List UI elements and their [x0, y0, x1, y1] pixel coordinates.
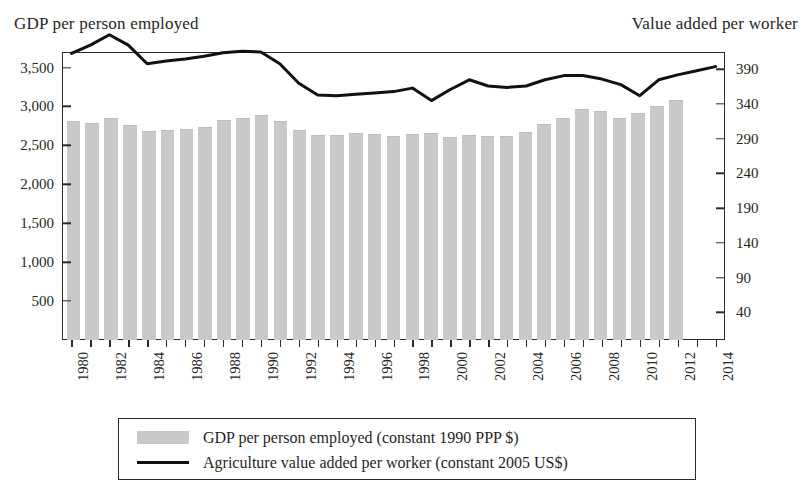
left-axis-tick-label: 500 — [32, 294, 55, 309]
x-axis-label-2012: 2012 — [683, 352, 698, 381]
right-axis: 4090140190240290340390 — [736, 0, 810, 502]
x-axis-tick — [507, 340, 508, 347]
x-axis-tick — [659, 340, 660, 347]
x-axis-tick — [147, 340, 148, 347]
x-axis-tick — [261, 340, 262, 347]
left-axis-tick — [62, 223, 71, 224]
plot-area — [62, 52, 725, 340]
x-axis-tick — [280, 340, 281, 347]
x-axis-ticks — [62, 340, 725, 348]
left-axis-tick-label: 2,000 — [20, 177, 54, 192]
x-axis-label-1998: 1998 — [417, 352, 432, 381]
x-axis-tick — [450, 340, 451, 347]
right-axis-tick — [716, 277, 725, 278]
x-axis-tick — [716, 340, 717, 347]
left-axis-tick — [62, 300, 71, 301]
x-axis-labels: 1980198219841986198819901992199419961998… — [62, 352, 725, 412]
x-axis-label-1984: 1984 — [152, 352, 167, 381]
x-axis-label-1986: 1986 — [190, 352, 205, 381]
left-axis-tick — [62, 184, 71, 185]
x-axis-tick — [564, 340, 565, 347]
right-axis-tick-label: 190 — [736, 201, 759, 216]
right-axis-tick — [716, 173, 725, 174]
x-axis-label-2008: 2008 — [607, 352, 622, 381]
left-axis-tick-label: 3,500 — [20, 60, 54, 75]
line-series — [62, 52, 725, 340]
legend-label-agriculture: Agriculture value added per worker (cons… — [203, 454, 568, 472]
right-axis-tick-label: 390 — [736, 62, 759, 77]
x-axis-label-1982: 1982 — [114, 352, 129, 381]
left-axis-tick — [62, 145, 71, 146]
x-axis-label-2010: 2010 — [645, 352, 660, 381]
right-axis-tick — [716, 103, 725, 104]
x-axis-tick — [299, 340, 300, 347]
x-axis-tick — [640, 340, 641, 347]
right-axis-tick — [716, 138, 725, 139]
agriculture-line — [72, 35, 716, 101]
x-axis-label-2002: 2002 — [493, 352, 508, 381]
right-axis-tick-label: 40 — [736, 305, 751, 320]
x-axis-label-1994: 1994 — [342, 352, 357, 381]
x-axis-tick — [90, 340, 91, 347]
chart-figure: GDP per person employed Value added per … — [0, 0, 810, 502]
x-axis-tick — [71, 340, 72, 347]
x-axis-tick — [375, 340, 376, 347]
x-axis-tick — [526, 340, 527, 347]
x-axis-tick — [697, 340, 698, 347]
right-axis-tick-label: 240 — [736, 166, 759, 181]
right-axis-tick — [716, 312, 725, 313]
x-axis-tick — [223, 340, 224, 347]
x-axis-label-1980: 1980 — [76, 352, 91, 381]
x-axis-tick — [621, 340, 622, 347]
x-axis-tick — [128, 340, 129, 347]
x-axis-tick — [242, 340, 243, 347]
right-axis-tick-label: 140 — [736, 235, 759, 250]
right-axis-tick — [716, 242, 725, 243]
x-axis-tick — [678, 340, 679, 347]
x-axis-tick — [394, 340, 395, 347]
x-axis-tick — [204, 340, 205, 347]
x-axis-label-2000: 2000 — [455, 352, 470, 381]
x-axis-label-2006: 2006 — [569, 352, 584, 381]
x-axis-tick — [602, 340, 603, 347]
left-axis-tick-label: 2,500 — [20, 138, 54, 153]
left-axis-tick — [62, 261, 71, 262]
left-axis-tick — [62, 67, 71, 68]
legend-item-agriculture: Agriculture value added per worker (cons… — [137, 451, 695, 474]
x-axis-label-1990: 1990 — [266, 352, 281, 381]
x-axis-label-1992: 1992 — [304, 352, 319, 381]
x-axis-tick — [337, 340, 338, 347]
x-axis-tick — [545, 340, 546, 347]
right-axis-tick-label: 290 — [736, 131, 759, 146]
legend-item-gdp: GDP per person employed (constant 1990 P… — [137, 426, 695, 449]
left-axis: 5001,0001,5002,0002,5003,0003,500 — [0, 0, 54, 502]
x-axis-tick — [166, 340, 167, 347]
x-axis-label-2014: 2014 — [721, 352, 736, 381]
left-axis-tick-label: 1,000 — [20, 255, 54, 270]
right-axis-tick-label: 90 — [736, 270, 751, 285]
chart-legend: GDP per person employed (constant 1990 P… — [118, 418, 696, 480]
x-axis-tick — [109, 340, 110, 347]
right-axis-tick — [716, 69, 725, 70]
x-axis-label-2004: 2004 — [531, 352, 546, 381]
legend-label-gdp: GDP per person employed (constant 1990 P… — [203, 429, 519, 447]
x-axis-tick — [412, 340, 413, 347]
x-axis-label-1988: 1988 — [228, 352, 243, 381]
x-axis-tick — [583, 340, 584, 347]
x-axis-tick — [318, 340, 319, 347]
bar-swatch-icon — [137, 431, 189, 444]
x-axis-tick — [488, 340, 489, 347]
left-axis-tick-label: 3,000 — [20, 99, 54, 114]
line-swatch-icon — [137, 461, 189, 464]
left-axis-tick-label: 1,500 — [20, 216, 54, 231]
x-axis-tick — [356, 340, 357, 347]
x-axis-label-1996: 1996 — [380, 352, 395, 381]
x-axis-tick — [469, 340, 470, 347]
left-axis-tick — [62, 106, 71, 107]
x-axis-tick — [431, 340, 432, 347]
x-axis-tick — [185, 340, 186, 347]
right-axis-tick — [716, 207, 725, 208]
right-axis-tick-label: 340 — [736, 97, 759, 112]
